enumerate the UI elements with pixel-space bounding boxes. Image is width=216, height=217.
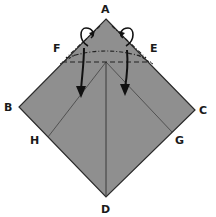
label-d: D — [101, 203, 110, 216]
label-f: F — [53, 42, 61, 55]
label-h: H — [30, 134, 39, 147]
label-b: B — [4, 101, 12, 114]
label-a: A — [101, 3, 110, 16]
label-e: E — [150, 42, 158, 55]
label-c: C — [199, 104, 207, 117]
label-g: G — [175, 134, 184, 147]
paper-square — [19, 19, 195, 197]
origami-diagram: A B C D E F G H — [0, 0, 216, 217]
